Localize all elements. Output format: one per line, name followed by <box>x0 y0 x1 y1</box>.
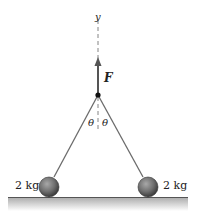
force-arrow-icon <box>95 57 102 95</box>
right-rod <box>98 95 143 177</box>
left-ball <box>39 177 59 197</box>
right-ball <box>138 177 158 197</box>
pivot-point <box>95 92 100 97</box>
angle-left-label: θ <box>88 117 94 128</box>
mass-left-label: 2 kg <box>15 179 39 192</box>
mass-right-label: 2 kg <box>163 179 187 192</box>
pendulum-diagram: y F θ θ 2 kg 2 kg <box>0 0 197 214</box>
angle-right-label: θ <box>102 117 108 128</box>
left-rod <box>54 95 98 177</box>
force-label: F <box>104 71 113 85</box>
y-axis-label: y <box>95 11 101 22</box>
ground-surface <box>8 197 188 211</box>
